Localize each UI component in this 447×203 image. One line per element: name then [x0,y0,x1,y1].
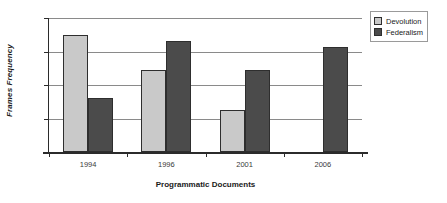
legend-item-devolution[interactable]: Devolution [374,16,423,26]
gridline [49,85,362,86]
legend-item-federalism[interactable]: Federalism [374,27,423,37]
x-tick-label-2006: 2006 [293,160,353,169]
legend-label: Federalism [386,28,423,37]
bar-federalism-1994 [88,98,113,152]
y-tick-mark [44,119,49,120]
bar-federalism-2001 [245,70,270,152]
y-axis-title: Frames Frequency [0,0,18,160]
x-tick-label-1996: 1996 [136,160,196,169]
x-tick-mark [49,152,50,157]
legend-swatch-federalism [374,28,382,36]
bar-federalism-2006 [323,47,348,152]
bar-devolution-1996 [141,70,166,152]
bar-devolution-2001 [220,110,245,152]
x-tick-mark [127,152,128,157]
legend-swatch-devolution [374,17,382,25]
y-tick-mark [44,52,49,53]
x-tick-label-1994: 1994 [58,160,118,169]
legend-label: Devolution [386,17,421,26]
x-tick-mark [284,152,285,157]
bar-devolution-1994 [63,35,88,152]
x-tick-mark [206,152,207,157]
bar-chart-figure: Frames Frequency 05101520 19941996200120… [0,0,447,203]
gridline [49,52,362,53]
bar-federalism-1996 [166,41,191,152]
plot-area: 05101520 1994199620012006 [49,18,362,152]
y-tick-mark [44,85,49,86]
x-tick-mark [362,152,363,157]
y-axis-title-text: Frames Frequency [5,44,14,117]
y-tick-mark [44,18,49,19]
chart-legend: DevolutionFederalism [370,11,428,42]
gridline [49,18,362,19]
x-tick-label-2001: 2001 [215,160,275,169]
x-axis-title: Programmatic Documents [49,180,362,189]
